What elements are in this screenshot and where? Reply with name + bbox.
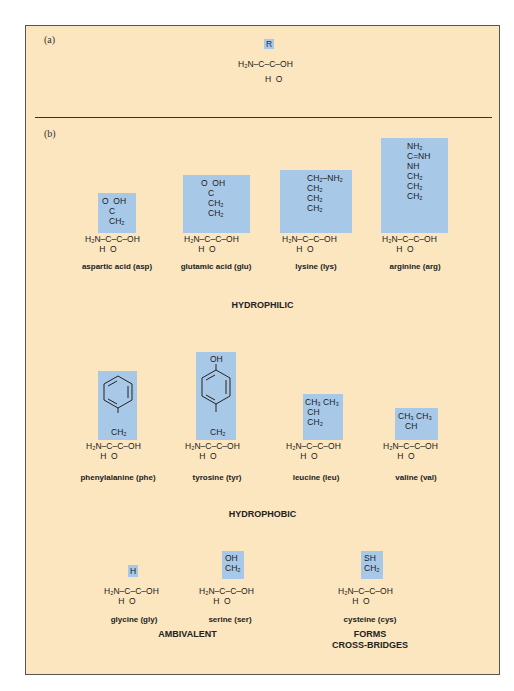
phenol-ring-icon xyxy=(198,364,234,414)
leu-side-chain: CH₃ CH₃ CH CH₂ xyxy=(305,397,339,427)
phe-backbone: H₂N–C–C–OH H O xyxy=(86,441,141,461)
asp-backbone: H₂N–C–C–OH H O xyxy=(85,234,140,254)
ser-name: serine (ser) xyxy=(175,615,285,624)
gly-backbone: H₂N–C–C–OH H O xyxy=(104,586,159,606)
glu-backbone: H₂N–C–C–OH H O xyxy=(184,234,239,254)
benzene-ring-icon xyxy=(100,373,136,413)
panel-separator xyxy=(35,117,492,118)
arg-name: arginine (arg) xyxy=(360,262,470,271)
phe-name: phenylalanine (phe) xyxy=(63,473,173,482)
asp-name: aspartic acid (asp) xyxy=(62,262,172,271)
lys-backbone: H₂N–C–C–OH H O xyxy=(282,234,337,254)
cys-backbone: H₂N–C–C–OH H O xyxy=(338,586,393,606)
r-group: R xyxy=(266,39,272,49)
glu-name: glutamic acid (glu) xyxy=(161,262,271,271)
hydrophobic-label: HYDROPHOBIC xyxy=(200,509,325,520)
hydrophilic-label: HYDROPHILIC xyxy=(200,300,325,311)
arg-backbone: H₂N–C–C–OH H O xyxy=(382,234,437,254)
tyr-backbone: H₂N–C–C–OH H O xyxy=(185,441,240,461)
leu-name: leucine (leu) xyxy=(261,473,371,482)
leu-backbone: H₂N–C–C–OH H O xyxy=(286,441,341,461)
general-backbone: H₂N–C–C–OH xyxy=(238,59,293,69)
panel-a-label: (a) xyxy=(44,34,55,45)
cross-bridges-label: FORMS CROSS-BRIDGES xyxy=(310,629,430,651)
arg-side-chain: NH₂ C=NH NH CH₂ CH₂ CH₂ xyxy=(407,141,430,201)
val-backbone: H₂N–C–C–OH H O xyxy=(383,441,438,461)
ser-side-chain: OH CH₂ xyxy=(225,553,241,573)
tyr-name: tyrosine (tyr) xyxy=(162,473,272,482)
panel-b-label: (b) xyxy=(44,128,56,139)
tyr-ch2: CH₂ xyxy=(210,427,226,437)
val-side-chain: CH₃ CH₃ CH xyxy=(398,411,432,431)
asp-side-chain: O OH C CH₂ xyxy=(102,196,126,226)
ambivalent-label: AMBIVALENT xyxy=(125,629,250,640)
cys-side-chain: SH CH₂ xyxy=(364,553,380,573)
lys-name: lysine (lys) xyxy=(261,262,371,271)
figure-panel xyxy=(25,25,500,675)
val-name: valine (val) xyxy=(361,473,471,482)
general-bottom: H O xyxy=(265,74,282,84)
glu-side-chain: O OH C CH₂ CH₂ xyxy=(201,178,225,218)
gly-name: glycine (gly) xyxy=(79,615,189,624)
cys-name: cysteine (cys) xyxy=(315,615,425,624)
phe-ch2: CH₂ xyxy=(111,427,127,437)
tyr-oh: OH xyxy=(210,354,223,364)
lys-side-chain: CH₂–NH₂ CH₂ CH₂ CH₂ xyxy=(307,173,343,213)
ser-backbone: H₂N–C–C–OH H O xyxy=(199,586,254,606)
gly-side-chain: H xyxy=(130,566,136,576)
